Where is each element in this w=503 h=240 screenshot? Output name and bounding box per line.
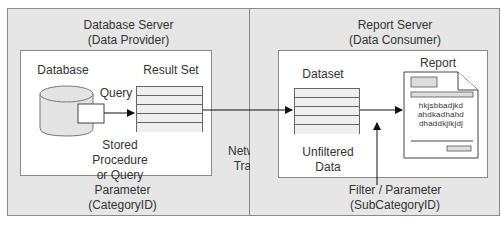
query-box [78, 104, 104, 123]
report-body-text: hkjsbbadjkd ahdkadhahd dhaddkjlkjdj [406, 101, 476, 128]
report-text-line2: ahdkadhahd [406, 110, 476, 119]
report-text-line1: hkjsbbadjkd [406, 101, 476, 110]
report-text-line3: dhaddkjlkjdj [406, 119, 476, 128]
